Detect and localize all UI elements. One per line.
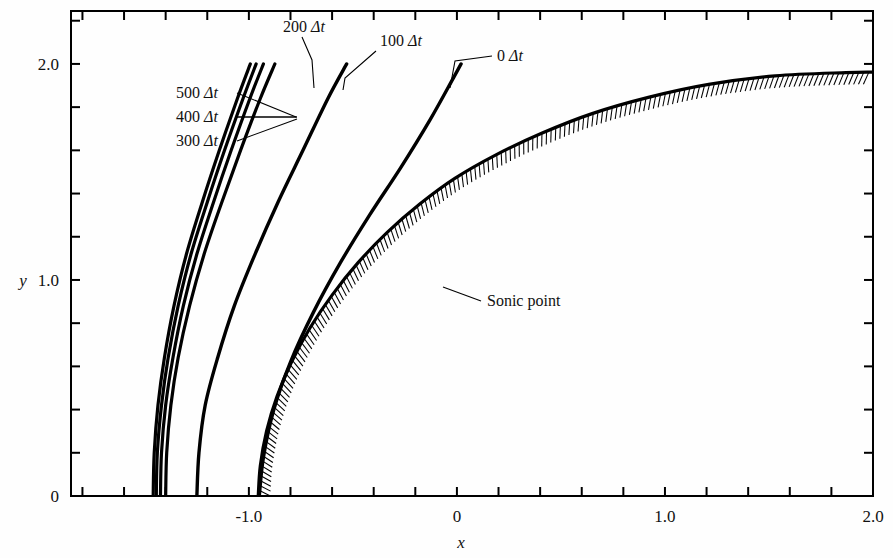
- label-400dt: 400 Δt: [176, 108, 218, 125]
- hatch-tick: [458, 177, 460, 190]
- hatch-tick: [804, 74, 809, 86]
- hatch-tick: [488, 159, 489, 172]
- leader-100dt: [343, 51, 376, 90]
- annotation-layer: 0 Δt100 Δt200 Δt500 Δt400 Δt300 ΔtSonic …: [176, 18, 561, 310]
- hatch-tick: [340, 284, 346, 296]
- hatch-tick: [824, 73, 829, 85]
- hatch-tick: [437, 191, 440, 204]
- shock-curve-400dt: [156, 64, 256, 496]
- label-300dt: 300 Δt: [176, 132, 218, 149]
- hatch-tick: [483, 162, 484, 175]
- label-200dt: 200 Δt: [283, 18, 325, 35]
- leader-200dt: [302, 37, 314, 88]
- hatch-tick: [492, 157, 493, 170]
- hatch-tick: [343, 280, 349, 292]
- hatch-tick: [858, 72, 863, 84]
- hatch-tick: [863, 72, 868, 84]
- hatch-tick: [854, 72, 859, 84]
- hatch-tick: [849, 72, 854, 84]
- hatch-tick: [834, 73, 839, 85]
- hatch-tick: [387, 233, 391, 246]
- hatch-tick: [433, 194, 436, 207]
- axis-layer: -1.001.02.001.02.0xy: [17, 11, 883, 552]
- x-tick-label: -1.0: [235, 507, 262, 526]
- hatch-tick: [366, 254, 371, 266]
- hatch-tick: [445, 185, 447, 198]
- hatch-tick: [421, 203, 424, 216]
- hatch-tick: [376, 243, 381, 255]
- hatch-tick: [569, 122, 570, 135]
- hatch-tick: [466, 171, 467, 184]
- x-tick-label: 1.0: [654, 507, 675, 526]
- hatch-tick: [564, 124, 565, 137]
- hatch-tick: [814, 73, 819, 85]
- hatch-tick: [453, 179, 455, 192]
- hatch-tick: [350, 273, 356, 285]
- hatch-tick: [470, 169, 471, 182]
- hatch-tick: [413, 209, 416, 222]
- hatch-tick: [794, 74, 799, 86]
- hatch-tick: [844, 72, 849, 84]
- x-axis-title: x: [456, 533, 465, 552]
- hatch-tick: [829, 73, 834, 85]
- hatch-tick: [497, 155, 498, 168]
- hatch-tick: [560, 125, 561, 138]
- hatch-tick: [479, 164, 480, 177]
- label-100dt: 100 Δt: [380, 32, 422, 49]
- hatch-tick: [501, 152, 502, 165]
- hatch-tick: [398, 222, 402, 235]
- figure-root: -1.001.02.001.02.0xy 0 Δt100 Δt200 Δt500…: [0, 0, 893, 558]
- x-tick-label: 0: [453, 507, 462, 526]
- hatch-tick: [839, 73, 844, 85]
- shock-curve-0dt: [259, 64, 461, 496]
- hatch-tick: [809, 74, 814, 86]
- hatch-tick: [337, 288, 343, 300]
- hatch-tick: [391, 229, 395, 242]
- hatch-tick: [819, 73, 824, 85]
- shock-curve-200dt: [166, 64, 275, 496]
- hatch-tick: [394, 226, 398, 239]
- hatch-tick: [441, 188, 444, 201]
- hatch-tick: [353, 269, 359, 281]
- hatch-tick: [334, 292, 340, 304]
- hatch-tick: [429, 197, 432, 210]
- hatch-tick: [475, 166, 476, 179]
- hatch-tick: [373, 247, 378, 259]
- hatch-tick: [506, 150, 507, 163]
- hatch-tick: [799, 74, 804, 86]
- hatch-tick: [380, 239, 385, 251]
- hatch-tick: [425, 200, 428, 213]
- y-tick-label: 0: [51, 487, 60, 506]
- hatch-tick: [417, 206, 420, 219]
- label-0dt: 0 Δt: [497, 47, 523, 64]
- y-axis-title: y: [17, 271, 27, 290]
- hatch-tick: [410, 213, 414, 226]
- hatch-tick: [363, 258, 368, 270]
- label-500dt: 500 Δt: [176, 84, 218, 101]
- leader-sonic-point: [443, 287, 481, 301]
- leader-300dt: [237, 119, 297, 141]
- hatch-tick: [462, 174, 464, 187]
- shock-wave-convergence-chart: -1.001.02.001.02.0xy 0 Δt100 Δt200 Δt500…: [0, 0, 893, 558]
- y-tick-label: 2.0: [38, 55, 59, 74]
- hatch-tick: [384, 236, 388, 248]
- hatch-tick: [346, 277, 352, 289]
- hatch-tick: [402, 219, 406, 232]
- hatch-tick: [356, 265, 362, 277]
- curve-layer: [153, 64, 873, 501]
- body-surface-hatching: [258, 72, 869, 501]
- sonic-point-text: Sonic point: [487, 292, 561, 310]
- hatch-tick: [449, 182, 451, 195]
- hatch-tick: [359, 261, 364, 273]
- x-tick-label: 2.0: [862, 507, 883, 526]
- hatch-tick: [406, 216, 410, 229]
- y-tick-label: 1.0: [38, 271, 59, 290]
- hatch-tick: [370, 250, 375, 262]
